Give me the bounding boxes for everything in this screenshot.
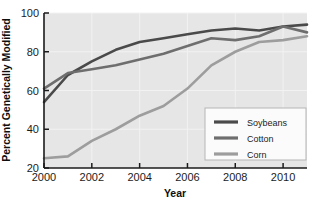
legend-label-corn: Corn: [247, 150, 267, 160]
chart-legend: SoybeansCottonCorn: [205, 108, 306, 160]
x-axis-title: Year: [164, 187, 186, 199]
x-tick-label: 2000: [32, 171, 56, 183]
y-tick-label: 80: [27, 46, 39, 58]
genetically-modified-crops-line-chart: 20406080100 200020022004200620082010 Per…: [0, 0, 318, 208]
legend-label-cotton: Cotton: [247, 134, 274, 144]
y-tick-label: 40: [27, 123, 39, 135]
x-tick-label: 2010: [271, 171, 295, 183]
x-tick-label: 2006: [175, 171, 199, 183]
y-tick-label: 60: [27, 85, 39, 97]
x-tick-label: 2008: [223, 171, 247, 183]
legend-label-soybeans: Soybeans: [247, 118, 288, 128]
y-axis-title: Percent Genetically Modified: [0, 18, 12, 162]
x-tick-label: 2002: [80, 171, 104, 183]
y-tick-label: 100: [21, 7, 39, 19]
x-tick-label: 2004: [127, 171, 151, 183]
chart-canvas: 20406080100 200020022004200620082010 Per…: [0, 0, 318, 208]
